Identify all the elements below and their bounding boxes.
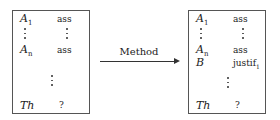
symbol-a1: A1 — [20, 13, 32, 29]
value-an: ass — [57, 45, 72, 56]
value-an: ass — [233, 45, 248, 56]
symbol-a1: A1 — [196, 13, 208, 29]
value-th: ? — [235, 100, 240, 111]
vertical-ellipsis-icon — [51, 75, 53, 89]
method-label: Method — [100, 46, 178, 57]
vertical-ellipsis-icon — [24, 28, 26, 42]
vertical-ellipsis-icon — [242, 28, 244, 42]
value-th: ? — [59, 100, 64, 111]
arrow-line — [100, 61, 176, 62]
symbol-an: An — [20, 44, 32, 60]
vertical-ellipsis-icon — [66, 28, 68, 42]
result-state-box: A1 ass An ass B justif1 Th ? — [188, 10, 266, 114]
vertical-ellipsis-icon — [227, 77, 229, 91]
value-a1: ass — [233, 14, 248, 25]
initial-state-box: A1 ass An ass Th ? — [12, 10, 90, 114]
symbol-b: B — [196, 57, 204, 68]
symbol-th: Th — [20, 100, 34, 111]
vertical-ellipsis-icon — [200, 28, 202, 42]
value-a1: ass — [57, 14, 72, 25]
symbol-th: Th — [196, 100, 210, 111]
value-justif1: justif1 — [233, 58, 260, 72]
arrow-head-icon — [174, 58, 180, 64]
